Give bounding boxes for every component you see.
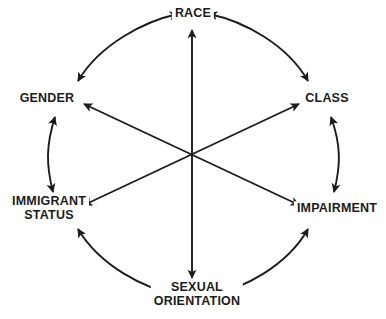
- arc-gender-race: [78, 14, 178, 81]
- node-label-sexual-orientation: SEXUAL ORIENTATION: [151, 280, 243, 309]
- node-gender-line1: GENDER: [20, 91, 75, 105]
- intersectionality-wheel-diagram: RACE CLASS IMPAIRMENT SEXUAL ORIENTATION…: [0, 0, 386, 319]
- node-class-line1: CLASS: [305, 91, 348, 105]
- node-label-immigrant-status: IMMIGRANT STATUS: [9, 194, 89, 223]
- center-diagonals: [84, 30, 299, 278]
- node-race-line1: RACE: [175, 6, 211, 20]
- arc-race-class: [209, 14, 308, 81]
- node-immigrant-status-line2: STATUS: [12, 208, 86, 222]
- wheel-connections: [0, 0, 386, 319]
- node-label-race: RACE: [172, 6, 214, 22]
- node-label-impairment: IMPAIRMENT: [294, 201, 380, 217]
- node-immigrant-status-line1: IMMIGRANT: [12, 194, 86, 208]
- arc-immigrant-status-gender: [48, 117, 55, 192]
- node-sexual-orientation-line2: ORIENTATION: [154, 294, 240, 308]
- node-label-class: CLASS: [302, 91, 351, 107]
- arc-class-impairment: [331, 117, 339, 192]
- node-sexual-orientation-line1: SEXUAL: [171, 280, 223, 294]
- node-impairment-line1: IMPAIRMENT: [297, 201, 377, 215]
- node-label-gender: GENDER: [17, 91, 78, 107]
